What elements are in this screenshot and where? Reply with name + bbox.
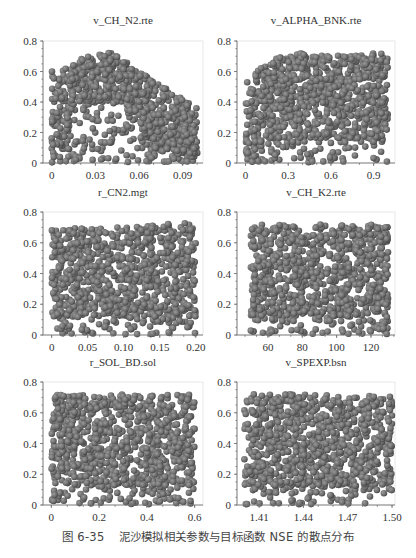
y-tick-label: 0.2 [23,127,37,139]
scatter-plot: 00.20.40.60.800.050.100.150.20 [0,180,208,352]
y-tick-label: 0 [32,157,38,169]
y-tick-label: 0.4 [217,96,231,108]
x-tick-label: 0.6 [188,511,202,523]
x-tick-label: 1.50 [382,511,402,523]
y-tick-label: 0 [226,329,232,341]
y-tick-label: 0.6 [217,237,231,249]
y-tick-label: 0.2 [23,468,37,480]
scatter-panel-v-spexp: 00.20.40.60.81.411.441.471.50v_SPEXP.bsn [208,352,416,524]
y-tick-label: 0.2 [217,127,231,139]
y-tick-label: 0.6 [217,66,231,78]
panel-title: v_CH_N2.rte [43,14,203,26]
figure-caption: 图 6-35泥沙模拟相关参数与目标函数 NSE 的散点分布 [0,528,416,544]
y-tick-label: 0.8 [23,206,37,218]
scatter-plot: 00.20.40.60.800.030.060.09 [0,0,208,180]
data-points [48,50,200,166]
data-points [243,50,391,165]
y-tick-label: 0.6 [217,407,231,419]
panel-title: r_CN2.mgt [43,186,203,198]
y-tick-label: 0.8 [217,376,231,388]
y-tick-label: 0 [32,329,38,341]
y-tick-label: 0 [226,499,232,511]
y-tick-label: 0.2 [23,298,37,310]
data-points [241,391,395,507]
scatter-panel-r-sol-bd: 00.20.40.60.800.20.40.6r_SOL_BD.sol [0,352,208,524]
y-tick-label: 0.6 [23,407,37,419]
y-tick-label: 0.4 [217,268,231,280]
x-tick-label: 0.4 [140,511,154,523]
y-tick-label: 0.8 [23,376,37,388]
y-tick-label: 0.4 [23,438,37,450]
panel-title: v_SPEXP.bsn [237,356,395,368]
y-tick-label: 0.4 [23,268,37,280]
y-tick-label: 0.4 [217,438,231,450]
scatter-plot: 00.20.40.60.86080100120 [208,180,416,352]
y-tick-label: 0 [226,157,232,169]
data-points [49,220,199,337]
y-tick-label: 0.4 [23,96,37,108]
x-tick-label: 0 [49,511,55,523]
caption-number: 图 6-35 [62,530,105,544]
scatter-plot: 00.20.40.60.800.30.60.9 [208,0,416,180]
scatter-panel-v-alpha-bnk: 00.20.40.60.800.30.60.9v_ALPHA_BNK.rte [208,0,416,180]
scatter-panel-v-ch-n2: 00.20.40.60.800.030.060.09v_CH_N2.rte [0,0,208,180]
scatter-plot: 00.20.40.60.81.411.441.471.50 [208,352,416,524]
x-tick-label: 0.2 [92,511,106,523]
y-tick-label: 0 [32,499,38,511]
panel-title: v_ALPHA_BNK.rte [237,14,395,26]
x-tick-label: 1.47 [338,511,358,523]
y-tick-label: 0.8 [23,35,37,47]
caption-text: 泥沙模拟相关参数与目标函数 NSE 的散点分布 [119,530,354,544]
x-tick-label: 1.41 [250,511,269,523]
data-points [48,391,198,507]
y-tick-label: 0.6 [23,66,37,78]
scatter-panel-v-ch-k2: 00.20.40.60.86080100120v_CH_K2.rte [208,180,416,352]
y-tick-label: 0.6 [23,237,37,249]
scatter-panel-r-cn2: 00.20.40.60.800.050.100.150.20r_CN2.mgt [0,180,208,352]
x-tick-label: 1.44 [294,511,314,523]
panel-title: r_SOL_BD.sol [43,356,203,368]
y-tick-label: 0.2 [217,468,231,480]
scatter-plot: 00.20.40.60.800.20.40.6 [0,352,208,524]
y-tick-label: 0.2 [217,298,231,310]
y-tick-label: 0.8 [217,206,231,218]
y-tick-label: 0.8 [217,35,231,47]
data-points [248,221,392,337]
panel-title: v_CH_K2.rte [237,186,395,198]
